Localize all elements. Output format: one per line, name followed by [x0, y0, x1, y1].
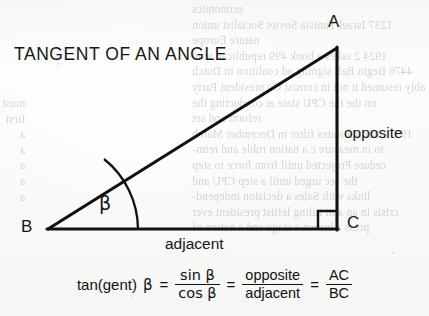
ghost-line: ably resumed it not in consist Co presid…	[192, 80, 425, 96]
ghost-line: must	[2, 96, 25, 112]
formula-equals-1: =	[159, 276, 170, 293]
formula-fraction-ac-bc: AC BC	[326, 268, 352, 302]
tangent-formula: tan(gent) β = sin β cos β = opposite adj…	[0, 268, 429, 302]
fraction-numerator: opposite	[242, 268, 303, 284]
ghost-line: a	[2, 127, 25, 143]
scan-speck	[214, 148, 216, 149]
ghost-line: links with Sales a decision independ-	[192, 189, 425, 205]
right-angle-square-icon	[318, 211, 336, 229]
ghost-line: 1237 Israel Tunisia Soviet Socialist uni…	[192, 18, 425, 34]
ghost-line: to in measure c a nation ruble and reim-	[192, 142, 425, 158]
vertex-label-b: B	[21, 217, 32, 237]
ghost-line: economics	[192, 2, 425, 18]
hypotenuse-line-ba	[48, 48, 337, 229]
formula-equals-2: =	[226, 276, 237, 293]
ghost-line: crisis in an anti ruling leftist preside…	[192, 205, 425, 221]
figure-title: TANGENT OF AN ANGLE	[14, 44, 227, 65]
formula-equals-3: =	[309, 276, 320, 293]
ghost-line: first	[2, 112, 25, 128]
vertex-label-a: A	[328, 12, 339, 32]
fraction-denominator: BC	[326, 284, 352, 301]
formula-fraction-opposite-adjacent: opposite adjacent	[242, 268, 303, 302]
scanned-figure-page: economics 1237 Israel Tunisia Soviet Soc…	[0, 0, 429, 316]
formula-lhs-angle: β	[143, 276, 153, 294]
vertex-label-c: C	[347, 213, 359, 233]
formula-fraction-sin-cos: sin β cos β	[175, 268, 219, 302]
ghost-line: a	[2, 174, 25, 190]
ghost-text-left-column: must first a a a a a	[2, 96, 25, 205]
scan-speck	[392, 252, 394, 254]
side-label-adjacent: adjacent	[165, 235, 224, 253]
ghost-line: press a brown a stage and a nation of	[192, 220, 425, 236]
ghost-line: on the the CPU state at conducting the	[192, 96, 425, 112]
ghost-line: a	[2, 158, 25, 174]
formula-lhs: tan(gent)	[77, 276, 137, 293]
ghost-line: cedure Projected until from force to ste…	[192, 158, 425, 174]
ghost-line: 4476 Begin Ball signing ad coalition in …	[192, 64, 425, 80]
ghost-text-right-column: economics 1237 Israel Tunisia Soviet Soc…	[192, 2, 425, 236]
ghost-line: the sec urged until a step CPU and	[192, 174, 425, 190]
angle-label-beta: β	[99, 192, 111, 214]
ghost-line: a	[2, 143, 25, 159]
fraction-denominator: adjacent	[242, 284, 303, 301]
fraction-numerator: sin β	[177, 268, 218, 284]
side-label-opposite: opposite	[344, 124, 403, 142]
fraction-denominator: cos β	[175, 284, 219, 301]
ghost-line: a	[2, 190, 25, 206]
fraction-numerator: AC	[326, 268, 352, 284]
